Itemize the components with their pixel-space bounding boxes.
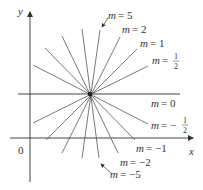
label-m5: m = 5: [108, 9, 133, 21]
diagram-canvas: y x 0 m = 5 m = 2 m = 1 m = 1 2 m = 0 m …: [0, 0, 203, 190]
svg-text:m: m: [110, 168, 118, 180]
svg-text:2: 2: [183, 126, 187, 135]
label-m-half: m = 1 2: [152, 52, 179, 71]
svg-text:=: =: [162, 54, 168, 66]
label-m-neg-1: m = −1: [136, 142, 167, 154]
label-m-neg-2: m = −2: [120, 156, 151, 168]
label-m2: m = 2: [122, 23, 146, 35]
y-axis-label: y: [17, 5, 23, 17]
slope-family-diagram: y x 0 m = 5 m = 2 m = 1 m = 1 2 m = 0 m …: [0, 0, 203, 190]
svg-text:m: m: [151, 119, 159, 131]
svg-text:m: m: [120, 156, 128, 168]
svg-text:= −1: = −1: [146, 142, 167, 154]
svg-text:= −5: = −5: [120, 168, 141, 180]
svg-text:2: 2: [174, 62, 178, 71]
svg-text:1: 1: [174, 52, 178, 61]
svg-text:m: m: [122, 23, 130, 35]
svg-text:m: m: [151, 97, 159, 109]
svg-text:= 5: = 5: [118, 9, 133, 21]
origin-label: 0: [18, 144, 24, 156]
svg-text:= 2: = 2: [132, 23, 146, 35]
svg-text:m: m: [108, 9, 116, 21]
svg-text:= −: = −: [161, 119, 176, 131]
label-m1: m = 1: [140, 37, 164, 49]
svg-text:1: 1: [183, 116, 187, 125]
x-axis-label: x: [188, 145, 194, 157]
label-m-neg-half: m = − 1 2: [151, 116, 188, 135]
label-m-neg-5: m = −5: [110, 168, 141, 180]
label-m0: m = 0: [151, 97, 176, 109]
svg-text:m: m: [136, 142, 144, 154]
center-point: [88, 92, 92, 96]
svg-text:= 1: = 1: [150, 37, 164, 49]
svg-text:= 0: = 0: [161, 97, 176, 109]
svg-text:m: m: [140, 37, 148, 49]
svg-text:m: m: [152, 54, 160, 66]
svg-text:= −2: = −2: [130, 156, 151, 168]
